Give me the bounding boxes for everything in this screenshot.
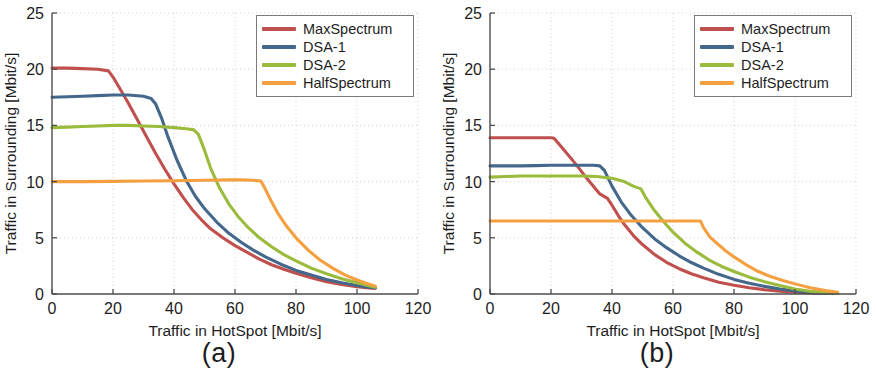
y-tick-label: 20 xyxy=(26,61,44,78)
legend-label: DSA-2 xyxy=(741,56,784,74)
x-tick-label: 80 xyxy=(287,300,305,317)
x-tick-label: 120 xyxy=(405,300,432,317)
x-tick-label: 120 xyxy=(843,300,870,317)
x-tick-label: 40 xyxy=(165,300,183,317)
legend-swatch-icon xyxy=(700,27,734,31)
y-tick-label: 15 xyxy=(464,117,482,134)
legend-item-dsa-2: DSA-2 xyxy=(700,56,845,74)
legend-b: MaxSpectrumDSA-1DSA-2HalfSpectrum xyxy=(694,15,852,97)
x-tick-label: 100 xyxy=(344,300,371,317)
legend-item-dsa-1: DSA-1 xyxy=(262,38,407,56)
x-tick-label: 0 xyxy=(486,300,495,317)
x-axis-label: Traffic in HotSpot [Mbit/s] xyxy=(148,322,321,339)
legend-label: MaxSpectrum xyxy=(741,20,830,38)
x-tick-label: 60 xyxy=(226,300,244,317)
legend-item-dsa-2: DSA-2 xyxy=(262,56,407,74)
y-tick-label: 20 xyxy=(464,61,482,78)
y-tick-label: 15 xyxy=(26,117,44,134)
y-tick-label: 5 xyxy=(473,230,482,247)
legend-swatch-icon xyxy=(700,81,734,85)
x-tick-label: 80 xyxy=(725,300,743,317)
panel-caption-b: (b) xyxy=(438,338,876,369)
y-tick-label: 25 xyxy=(26,5,44,22)
legend-swatch-icon xyxy=(262,45,296,49)
y-tick-label: 10 xyxy=(26,174,44,191)
x-tick-label: 20 xyxy=(104,300,122,317)
legend-label: HalfSpectrum xyxy=(303,74,391,92)
y-tick-label: 0 xyxy=(473,286,482,303)
legend-item-dsa-1: DSA-1 xyxy=(700,38,845,56)
legend-a: MaxSpectrumDSA-1DSA-2HalfSpectrum xyxy=(256,15,414,97)
x-axis-label: Traffic in HotSpot [Mbit/s] xyxy=(586,322,759,339)
x-tick-label: 60 xyxy=(664,300,682,317)
legend-item-maxspectrum: MaxSpectrum xyxy=(700,20,845,38)
legend-label: DSA-1 xyxy=(741,38,784,56)
legend-swatch-icon xyxy=(262,81,296,85)
legend-label: HalfSpectrum xyxy=(741,74,829,92)
series-line-dsa-2 xyxy=(490,176,838,293)
panel-caption-a: (a) xyxy=(0,338,438,369)
y-tick-label: 5 xyxy=(35,230,44,247)
series-line-dsa-1 xyxy=(490,165,838,293)
series-line-halfspectrum xyxy=(52,180,375,286)
legend-item-halfspectrum: HalfSpectrum xyxy=(262,74,407,92)
x-tick-label: 100 xyxy=(782,300,809,317)
figure-root: 0204060801001200510152025Traffic in HotS… xyxy=(0,0,876,387)
legend-item-maxspectrum: MaxSpectrum xyxy=(262,20,407,38)
series-line-dsa-1 xyxy=(52,95,375,288)
x-tick-label: 40 xyxy=(603,300,621,317)
y-tick-label: 0 xyxy=(35,286,44,303)
legend-swatch-icon xyxy=(700,63,734,67)
chart-panel-b: 0204060801001200510152025Traffic in HotS… xyxy=(438,0,876,387)
series-line-halfspectrum xyxy=(490,221,838,292)
x-tick-label: 0 xyxy=(48,300,57,317)
legend-item-halfspectrum: HalfSpectrum xyxy=(700,74,845,92)
y-axis-label: Traffic in Surrounding [Mbit/s] xyxy=(440,53,457,255)
legend-swatch-icon xyxy=(700,45,734,49)
series-line-maxspectrum xyxy=(490,138,838,294)
legend-label: MaxSpectrum xyxy=(303,20,392,38)
legend-label: DSA-1 xyxy=(303,38,346,56)
y-tick-label: 10 xyxy=(464,174,482,191)
x-tick-label: 20 xyxy=(542,300,560,317)
y-axis-label: Traffic in Surrounding [Mbit/s] xyxy=(2,53,19,255)
legend-label: DSA-2 xyxy=(303,56,346,74)
chart-panel-a: 0204060801001200510152025Traffic in HotS… xyxy=(0,0,438,387)
legend-swatch-icon xyxy=(262,27,296,31)
legend-swatch-icon xyxy=(262,63,296,67)
y-tick-label: 25 xyxy=(464,5,482,22)
